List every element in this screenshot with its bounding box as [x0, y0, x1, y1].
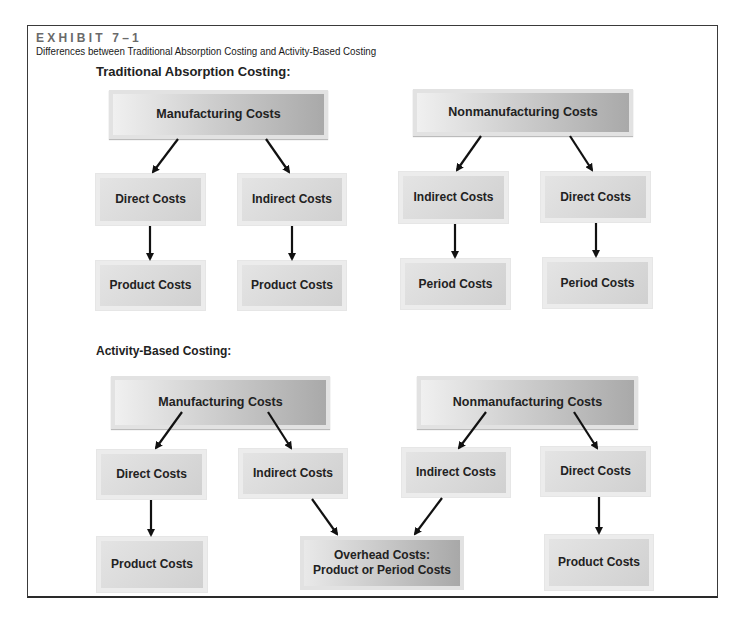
- trad-nonmfg-direct-period-costs-label: Period Costs: [560, 276, 634, 291]
- abc-nonmfg-direct-costs-label: Direct Costs: [560, 464, 631, 479]
- abc-nonmanufacturing-costs-label: Nonmanufacturing Costs: [453, 395, 602, 410]
- trad-mfg-indirect-costs-box: Indirect Costs: [238, 174, 346, 225]
- abc-mfg-direct-costs-box: Direct Costs: [97, 450, 206, 499]
- abc-manufacturing-costs-box: Manufacturing Costs: [111, 376, 330, 429]
- abc-overhead-costs-line2: Product or Period Costs: [313, 563, 451, 578]
- trad-nonmfg-indirect-period-costs-box: Period Costs: [401, 259, 510, 309]
- abc-mfg-indirect-costs-label: Indirect Costs: [253, 466, 333, 481]
- abc-manufacturing-costs-label: Manufacturing Costs: [158, 395, 282, 410]
- exhibit-subtitle: Differences between Traditional Absorpti…: [36, 45, 376, 57]
- trad-mfg-indirect-costs-label: Indirect Costs: [252, 192, 332, 207]
- trad-mfg-indirect-product-costs-box: Product Costs: [238, 261, 346, 310]
- abc-mfg-direct-costs-label: Direct Costs: [116, 467, 187, 482]
- trad-nonmfg-direct-costs-label: Direct Costs: [560, 190, 631, 205]
- trad-mfg-direct-costs-box: Direct Costs: [96, 174, 205, 225]
- exhibit-label: EXHIBIT 7–1: [36, 31, 142, 45]
- traditional-section-title: Traditional Absorption Costing:: [96, 64, 291, 79]
- trad-manufacturing-costs-box: Manufacturing Costs: [109, 90, 328, 139]
- trad-mfg-direct-product-costs-label: Product Costs: [109, 278, 191, 293]
- abc-overhead-costs-box: Overhead Costs: Product or Period Costs: [300, 536, 464, 590]
- abc-section-title: Activity-Based Costing:: [96, 344, 231, 358]
- trad-mfg-indirect-product-costs-label: Product Costs: [251, 278, 333, 293]
- trad-nonmfg-indirect-costs-label: Indirect Costs: [413, 190, 493, 205]
- abc-nonmanufacturing-costs-box: Nonmanufacturing Costs: [417, 376, 638, 429]
- abc-overhead-costs-line1: Overhead Costs:: [334, 548, 430, 563]
- trad-nonmfg-indirect-period-costs-label: Period Costs: [418, 277, 492, 292]
- trad-nonmanufacturing-costs-label: Nonmanufacturing Costs: [448, 105, 597, 120]
- trad-nonmfg-direct-period-costs-box: Period Costs: [543, 258, 652, 308]
- abc-nonmfg-direct-product-costs-label: Product Costs: [558, 555, 640, 570]
- abc-nonmfg-direct-costs-box: Direct Costs: [541, 447, 650, 496]
- abc-nonmfg-indirect-costs-label: Indirect Costs: [416, 465, 496, 480]
- abc-mfg-indirect-costs-box: Indirect Costs: [239, 449, 347, 498]
- trad-mfg-direct-costs-label: Direct Costs: [115, 192, 186, 207]
- trad-mfg-direct-product-costs-box: Product Costs: [96, 261, 205, 310]
- trad-nonmfg-direct-costs-box: Direct Costs: [541, 172, 650, 222]
- abc-mfg-direct-product-costs-box: Product Costs: [97, 537, 207, 592]
- abc-nonmfg-direct-product-costs-box: Product Costs: [545, 535, 653, 590]
- trad-nonmanufacturing-costs-box: Nonmanufacturing Costs: [413, 89, 633, 136]
- trad-manufacturing-costs-label: Manufacturing Costs: [156, 107, 280, 122]
- abc-nonmfg-indirect-costs-box: Indirect Costs: [402, 448, 510, 497]
- abc-mfg-direct-product-costs-label: Product Costs: [111, 557, 193, 572]
- trad-nonmfg-indirect-costs-box: Indirect Costs: [399, 172, 508, 223]
